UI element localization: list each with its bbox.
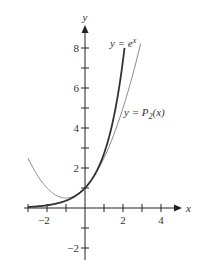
curve-label-p2: y = P2(x) <box>123 106 165 121</box>
curve-label-p2-main: y = P <box>123 106 149 118</box>
curve-label-p2-tail: (x) <box>153 106 166 119</box>
x-tick-label: 4 <box>158 214 164 226</box>
y-tick-label: 2 <box>74 162 80 174</box>
x-tick-label: 2 <box>120 214 126 226</box>
ticks: −224−22468 <box>28 42 164 254</box>
curve-label-exp-sup: x <box>132 36 137 45</box>
curve-p2 <box>28 44 141 198</box>
labels: x y y = ex y = P2(x) <box>82 11 191 214</box>
y-axis-label: y <box>82 11 88 23</box>
y-tick-label: −2 <box>67 242 79 254</box>
curve-label-exp-main: y = e <box>109 37 133 49</box>
x-tick-label: −2 <box>38 214 50 226</box>
chart: −224−22468 x y y = ex y = P2(x) <box>0 0 200 270</box>
y-axis-arrow <box>82 25 89 33</box>
y-tick-label: 8 <box>74 42 80 54</box>
x-axis-label: x <box>185 202 191 214</box>
x-axis-arrow <box>174 205 182 212</box>
curve-label-exp: y = ex <box>109 36 137 49</box>
y-tick-label: 4 <box>74 122 80 134</box>
y-tick-label: 6 <box>74 82 80 94</box>
